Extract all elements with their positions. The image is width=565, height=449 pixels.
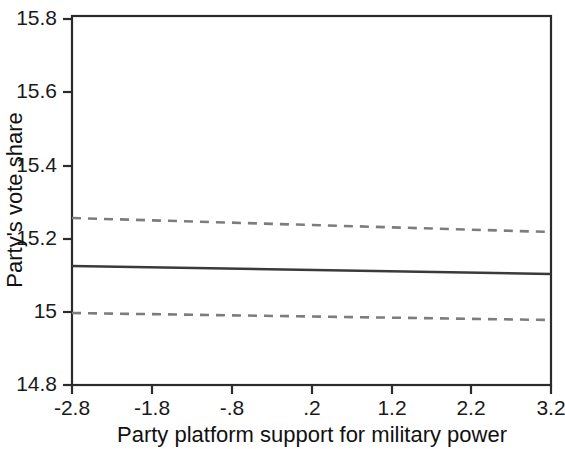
x-tick-label: -2.8 [54,396,90,419]
vote-share-line-chart: 15.8 15.6 15.4 15.2 15 14.8 -2.8 -1.8 -.… [0,0,565,449]
y-tick-label: 15 [34,299,57,322]
y-tick-label: 14.8 [16,372,57,395]
x-tick-label: 1.2 [377,396,406,419]
x-axis-title: Party platform support for military powe… [117,422,507,447]
x-tick-label: 2.2 [456,396,485,419]
x-tick-label: -.8 [220,396,245,419]
x-tick-label: -1.8 [134,396,170,419]
chart-figure: 15.8 15.6 15.4 15.2 15 14.8 -2.8 -1.8 -.… [0,0,565,449]
y-axis-title: Party's vote share [2,112,27,287]
x-tick-label: 3.2 [536,396,565,419]
x-tick-label: .2 [303,396,321,419]
y-tick-label: 15.6 [16,79,57,102]
y-tick-label: 15.8 [16,6,57,29]
